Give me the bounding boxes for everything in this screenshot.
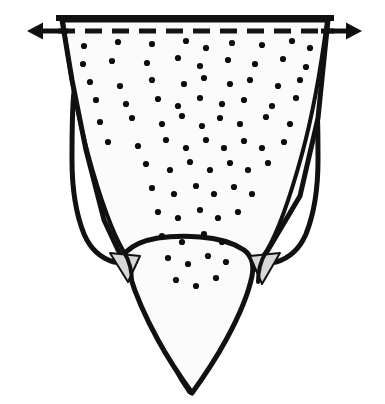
- stipple-dot: [197, 207, 203, 213]
- stipple-dot: [201, 231, 207, 237]
- stipple-dot: [303, 64, 309, 70]
- stipple-dot: [159, 233, 165, 239]
- stipple-dot: [287, 121, 293, 127]
- stipple-dot: [163, 137, 169, 143]
- stipple-dot: [109, 58, 115, 64]
- stipple-dot: [129, 115, 135, 121]
- stipple-dot: [203, 45, 209, 51]
- stipple-dot: [231, 184, 237, 190]
- stipple-dot: [171, 191, 177, 197]
- stipple-dot: [235, 209, 241, 215]
- stipple-dot: [265, 160, 271, 166]
- stipple-dot: [215, 215, 221, 221]
- stipple-dot: [173, 277, 179, 283]
- stipple-dot: [221, 145, 227, 151]
- stipple-dot: [181, 81, 187, 87]
- stipple-dot: [115, 39, 121, 45]
- stipple-dot: [217, 115, 223, 121]
- stipple-dot: [197, 95, 203, 101]
- stipple-dot: [179, 239, 185, 245]
- figure-root: Stippled tapering form with lateral lobe…: [0, 0, 385, 404]
- stipple-dot: [175, 55, 181, 61]
- stipple-dot: [197, 63, 203, 69]
- stipple-dot: [227, 160, 233, 166]
- stipple-dot: [135, 143, 141, 149]
- stipple-dot: [229, 40, 235, 46]
- stipple-dot: [227, 81, 233, 87]
- stipple-dot: [307, 45, 313, 51]
- stipple-dot: [143, 161, 149, 167]
- stipple-dot: [203, 137, 209, 143]
- stipple-dot: [175, 103, 181, 109]
- stipple-dot: [207, 167, 213, 173]
- stipple-dot: [263, 114, 269, 120]
- stipple-dot: [87, 79, 93, 85]
- stipple-dot: [280, 56, 286, 62]
- stipple-dot: [97, 119, 103, 125]
- stipple-dot: [149, 41, 155, 47]
- stipple-dot: [252, 61, 258, 67]
- stipple-dot: [105, 139, 111, 145]
- stipple-dot: [249, 191, 255, 197]
- stipple-dot: [223, 259, 229, 265]
- stipple-dot: [159, 121, 165, 127]
- stipple-dot: [259, 42, 265, 48]
- stipple-dot: [201, 75, 207, 81]
- stipple-dot: [219, 101, 225, 107]
- stipple-dot: [297, 77, 303, 83]
- stipple-dot: [211, 191, 217, 197]
- stipple-dot: [259, 145, 265, 151]
- stipple-dot: [123, 101, 129, 107]
- stipple-dot: [187, 159, 193, 165]
- stipple-dot: [193, 183, 199, 189]
- stipple-dot: [175, 215, 181, 221]
- stipple-dot: [167, 167, 173, 173]
- stipple-dot: [247, 77, 253, 83]
- stipple-dot: [80, 61, 86, 67]
- stipple-dot: [179, 113, 185, 119]
- stipple-dot: [213, 275, 219, 281]
- stipple-dot: [144, 60, 150, 66]
- stipple-dot: [117, 83, 123, 89]
- stipple-dot: [149, 77, 155, 83]
- stipple-dot: [281, 139, 287, 145]
- stipple-dot: [219, 239, 225, 245]
- stipple-dot: [241, 97, 247, 103]
- stipple-dot: [93, 97, 99, 103]
- stipple-dot: [199, 123, 205, 129]
- line-art-diagram-canvas: [0, 0, 385, 404]
- stipple-dot: [269, 103, 275, 109]
- stipple-dot: [193, 283, 199, 289]
- stipple-dot: [185, 261, 191, 267]
- stipple-dot: [155, 96, 161, 102]
- stipple-dot: [81, 43, 87, 49]
- stipple-dot: [275, 83, 281, 89]
- stipple-dot: [155, 209, 161, 215]
- stipple-dot: [165, 255, 171, 261]
- stipple-dot: [293, 95, 299, 101]
- stipple-dot: [289, 38, 295, 44]
- stipple-dot: [149, 185, 155, 191]
- stipple-dot: [241, 138, 247, 144]
- stipple-dot: [237, 121, 243, 127]
- stipple-dot: [205, 253, 211, 259]
- stipple-dot: [183, 38, 189, 44]
- stipple-dot: [183, 145, 189, 151]
- stipple-dot: [245, 167, 251, 173]
- stipple-dot: [225, 57, 231, 63]
